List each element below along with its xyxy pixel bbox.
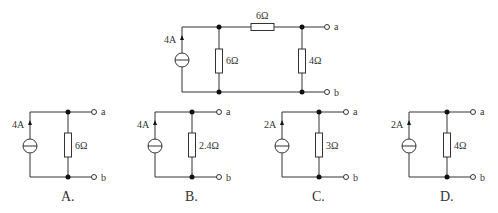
- option-terminal-b-label: b: [480, 172, 485, 183]
- option-terminal-b: [217, 175, 222, 180]
- option-a-circuit: 4A 6Ω a b A.: [12, 106, 106, 204]
- option-resistor: [189, 133, 196, 157]
- option-d-circuit: 2A 4Ω a b D.: [391, 106, 485, 204]
- option-node: [66, 175, 71, 180]
- main-node: [300, 90, 305, 95]
- option-source-arrow-icon: [153, 120, 157, 125]
- main-terminal-b: [325, 90, 330, 95]
- main-series-label: 6Ω: [256, 10, 268, 21]
- option-node: [317, 110, 322, 115]
- option-terminal-b: [344, 175, 349, 180]
- main-node: [217, 90, 222, 95]
- main-source-label: 4A: [164, 34, 177, 45]
- option-resistor-label: 2.4Ω: [199, 140, 219, 151]
- option-c-circuit: 2A 3Ω a b C.: [264, 106, 358, 204]
- option-resistor: [444, 133, 451, 157]
- option-letter: C.: [312, 189, 325, 204]
- main-circuit: 4A 6Ω 6Ω 4Ω a b: [164, 10, 339, 98]
- option-terminal-b-label: b: [101, 172, 106, 183]
- option-node: [445, 175, 450, 180]
- option-resistor-label: 6Ω: [75, 140, 87, 151]
- option-source-label: 4A: [137, 119, 150, 130]
- option-terminal-a-label: a: [101, 106, 106, 117]
- option-resistor: [316, 133, 323, 157]
- option-node: [190, 110, 195, 115]
- option-source-arrow-icon: [28, 120, 32, 125]
- option-resistor-label: 3Ω: [326, 140, 338, 151]
- main-load-label: 4Ω: [309, 55, 321, 66]
- option-letter: D.: [440, 189, 454, 204]
- option-b-circuit: 4A 2.4Ω a b B.: [137, 106, 231, 204]
- option-source-label: 2A: [391, 119, 404, 130]
- option-terminal-a-label: a: [226, 106, 231, 117]
- option-terminal-b-label: b: [353, 172, 358, 183]
- main-shunt-label: 6Ω: [226, 55, 238, 66]
- option-source-arrow-icon: [407, 120, 411, 125]
- option-terminal-a: [92, 110, 97, 115]
- option-terminal-a-label: a: [353, 106, 358, 117]
- circuit-figure: 4A 6Ω 6Ω 4Ω a b 4A 6Ω a b A. 4A 2.4Ω a: [0, 0, 498, 213]
- option-resistor-label: 4Ω: [454, 140, 466, 151]
- option-source-label: 2A: [264, 119, 277, 130]
- option-terminal-a: [471, 110, 476, 115]
- main-shunt-resistor: [216, 49, 223, 73]
- main-node: [217, 25, 222, 30]
- option-node: [317, 175, 322, 180]
- option-letter: B.: [185, 189, 198, 204]
- option-node: [190, 175, 195, 180]
- option-node: [66, 110, 71, 115]
- main-series-resistor: [251, 24, 274, 31]
- option-node: [445, 110, 450, 115]
- main-node: [300, 25, 305, 30]
- main-terminal-a: [325, 25, 330, 30]
- option-terminal-b: [92, 175, 97, 180]
- option-resistor: [65, 133, 72, 157]
- main-terminal-a-label: a: [334, 21, 339, 32]
- option-letter: A.: [61, 189, 75, 204]
- main-load-resistor: [299, 49, 306, 73]
- option-terminal-a: [217, 110, 222, 115]
- option-source-label: 4A: [12, 119, 25, 130]
- option-source-arrow-icon: [280, 120, 284, 125]
- option-terminal-b: [471, 175, 476, 180]
- option-terminal-a-label: a: [480, 106, 485, 117]
- option-terminal-a: [344, 110, 349, 115]
- main-source-arrow-icon: [180, 35, 184, 40]
- option-terminal-b-label: b: [226, 172, 231, 183]
- main-terminal-b-label: b: [334, 87, 339, 98]
